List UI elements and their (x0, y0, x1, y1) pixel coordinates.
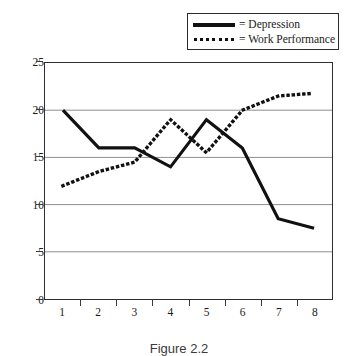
legend-label-depression: = Depression (239, 18, 300, 31)
legend-label-work-performance: = Work Performance (239, 33, 335, 46)
y-axis-tick-label: 20 (18, 105, 44, 116)
y-axis-tick-mark (36, 156, 43, 157)
x-axis-tick-mark (225, 300, 226, 306)
x-axis-tick-mark (297, 300, 298, 306)
x-axis-tick-label: 6 (228, 306, 258, 318)
data-series-layer (63, 93, 314, 228)
x-axis-tick-mark (189, 300, 190, 306)
y-axis-tick-mark (36, 299, 43, 300)
y-axis-tick-mark (36, 251, 43, 252)
x-axis-tick-mark (261, 300, 262, 306)
x-axis-tick-mark (80, 300, 81, 306)
figure-container: = Depression = Work Performance 05101520… (0, 0, 358, 356)
x-axis-tick-label: 3 (119, 306, 149, 318)
y-axis-tick-mark (36, 109, 43, 110)
y-axis-tick-mark (36, 204, 43, 205)
y-axis-tick-label: 10 (18, 200, 44, 211)
x-axis-tick-label: 1 (47, 306, 77, 318)
y-axis-tick-label: 5 (18, 247, 44, 258)
chart-canvas (45, 63, 332, 299)
y-axis-tick-label: 15 (18, 152, 44, 163)
chart-legend: = Depression = Work Performance (187, 13, 339, 50)
series-line-work-performance (63, 93, 314, 186)
y-axis-tick-label: 0 (18, 295, 44, 306)
x-axis-tick-mark (152, 300, 153, 306)
legend-entry-depression: = Depression (193, 17, 333, 32)
x-axis-tick-label: 4 (155, 306, 185, 318)
x-axis-tick-mark (116, 300, 117, 306)
x-axis-tick-label: 8 (300, 306, 330, 318)
y-axis-tick-mark (36, 61, 43, 62)
plot-area (44, 62, 333, 300)
series-line-depression (63, 110, 314, 228)
y-axis-tick-label: 25 (18, 57, 44, 68)
gridlines (45, 110, 332, 252)
x-axis-tick-label: 5 (192, 306, 222, 318)
figure-caption: Figure 2.2 (0, 341, 358, 356)
x-axis-tick-label: 7 (264, 306, 294, 318)
x-axis-tick-label: 2 (83, 306, 113, 318)
legend-entry-work-performance: = Work Performance (193, 32, 333, 47)
dotted-line-swatch-icon (193, 35, 235, 45)
solid-line-swatch-icon (193, 20, 235, 30)
